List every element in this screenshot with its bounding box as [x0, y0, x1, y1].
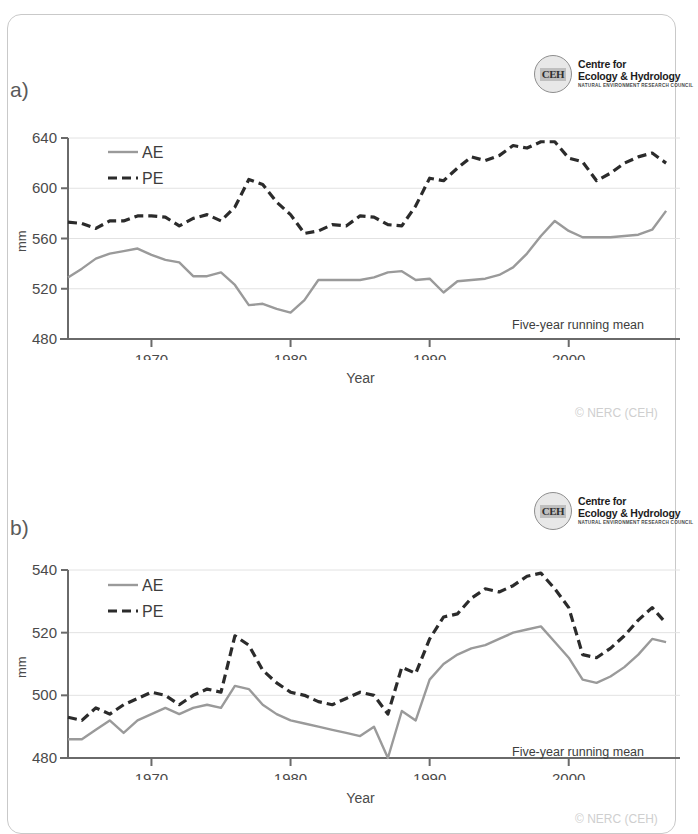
chart-b-x-axis-title: Year: [18, 790, 698, 806]
chart-a-x-axis-title-wrap: Year: [0, 370, 685, 386]
chart-b-x-axis-title-wrap: Year: [0, 790, 685, 806]
legend-label-pe: PE: [142, 170, 163, 187]
x-tick-label: 1990: [413, 351, 446, 360]
series-line-ae: [68, 211, 666, 313]
ceh-logo-b: CEH Centre for Ecology & Hydrology NATUR…: [534, 492, 693, 530]
legend-label-ae: AE: [142, 577, 163, 594]
ceh-monogram: CEH: [540, 68, 566, 81]
ceh-monogram: CEH: [540, 505, 566, 518]
ceh-logo-a: CEH Centre for Ecology & Hydrology NATUR…: [534, 55, 693, 93]
ceh-badge-icon: CEH: [534, 492, 572, 530]
x-tick-label: 1980: [274, 770, 307, 780]
ceh-logo-line2: Ecology & Hydrology: [578, 508, 693, 519]
ceh-logo-text: Centre for Ecology & Hydrology NATURAL E…: [578, 59, 693, 89]
y-tick-label: 520: [32, 624, 57, 641]
legend-label-ae: AE: [142, 144, 163, 161]
series-line-pe: [68, 573, 666, 720]
x-tick-label: 1980: [274, 351, 307, 360]
ceh-logo-line3: NATURAL ENVIRONMENT RESEARCH COUNCIL: [578, 521, 693, 526]
ceh-logo-line1: Centre for: [578, 496, 693, 507]
y-tick-label: 640: [32, 129, 57, 146]
y-tick-label: 480: [32, 749, 57, 766]
y-tick-label: 500: [32, 686, 57, 703]
legend-label-pe: PE: [142, 603, 163, 620]
panel-b-label: b): [10, 516, 29, 540]
ceh-logo-text: Centre for Ecology & Hydrology NATURAL E…: [578, 496, 693, 526]
ceh-logo-line1: Centre for: [578, 59, 693, 70]
y-tick-label: 480: [32, 330, 57, 347]
x-tick-label: 1970: [135, 770, 168, 780]
y-tick-label: 520: [32, 280, 57, 297]
panel-a-label: a): [10, 78, 29, 102]
y-tick-label: 540: [32, 561, 57, 578]
ceh-logo-line2: Ecology & Hydrology: [578, 71, 693, 82]
ceh-badge-icon: CEH: [534, 55, 572, 93]
copyright-b: © NERC (CEH): [575, 812, 658, 826]
chart-a-x-axis-title: Year: [18, 370, 698, 386]
x-tick-label: 2000: [552, 770, 585, 780]
x-tick-label: 2000: [552, 351, 585, 360]
y-tick-label: 560: [32, 230, 57, 247]
chart-a-annotation: Five-year running mean: [512, 318, 644, 332]
x-tick-label: 1990: [413, 770, 446, 780]
ceh-logo-line3: NATURAL ENVIRONMENT RESEARCH COUNCIL: [578, 84, 693, 89]
y-tick-label: 600: [32, 179, 57, 196]
chart-b-annotation: Five-year running mean: [512, 745, 644, 759]
copyright-a: © NERC (CEH): [575, 406, 658, 420]
x-tick-label: 1970: [135, 351, 168, 360]
